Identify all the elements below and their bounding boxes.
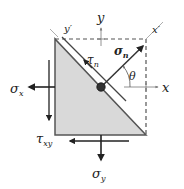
y-prime-label: y′: [63, 23, 73, 34]
stress-element-diagram: σx τxy σy τn σn θ x y x′ y′: [0, 0, 184, 189]
center-point: [97, 83, 105, 91]
sigma-n-label: σn: [114, 44, 129, 60]
y-prime-axis: [50, 29, 58, 37]
sigma-x-label: σx: [10, 81, 24, 98]
theta-label: θ: [129, 70, 136, 83]
y-axis-label: y: [96, 10, 105, 25]
x-prime-label: x′: [152, 24, 161, 35]
tau-n-label: τn: [87, 53, 99, 69]
x-axis-label: x: [162, 80, 170, 95]
tau-xy-label: τxy: [36, 131, 53, 148]
sigma-y-label: σy: [92, 166, 106, 183]
